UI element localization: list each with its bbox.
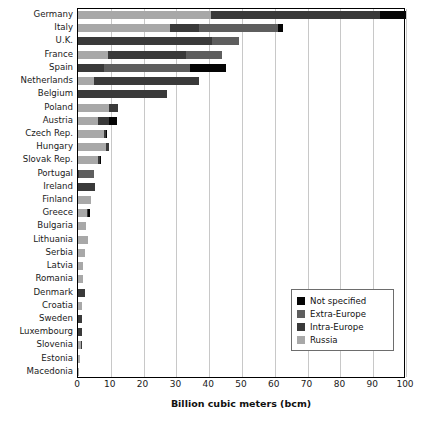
stacked-bar <box>78 328 82 336</box>
x-tick-label: 40 <box>202 379 213 389</box>
y-axis-label: France <box>0 48 73 61</box>
y-axis-label: Lithuania <box>0 233 73 246</box>
bar-segment <box>190 64 226 72</box>
y-axis-label: Hungary <box>0 140 73 153</box>
bar-segment <box>78 275 83 283</box>
legend-swatch-russia <box>297 336 305 344</box>
bar-segment <box>78 143 106 151</box>
stacked-bar <box>78 368 79 376</box>
bar-row <box>78 353 404 366</box>
y-axis-label: Ireland <box>0 180 73 193</box>
bar-row <box>78 260 404 273</box>
y-axis-label: Slovenia <box>0 338 73 351</box>
bar-row <box>78 207 404 220</box>
x-tick-label: 0 <box>74 379 80 389</box>
legend-item: Intra-Europe <box>297 320 388 333</box>
bar-segment <box>212 37 238 45</box>
bar-row <box>78 273 404 286</box>
y-axis-label: Estonia <box>0 352 73 365</box>
y-axis-label: Germany <box>0 8 73 21</box>
legend-item: Extra-Europe <box>297 307 388 320</box>
bar-segment <box>211 11 380 19</box>
bar-segment <box>78 130 104 138</box>
x-tick-label: 10 <box>104 379 115 389</box>
bar-row <box>78 181 404 194</box>
stacked-bar <box>78 262 83 270</box>
bar-segment <box>78 315 82 323</box>
y-axis-label: Latvia <box>0 259 73 272</box>
y-axis-label: Belgium <box>0 87 73 100</box>
y-axis-label: Portugal <box>0 167 73 180</box>
bar-row <box>78 115 404 128</box>
stacked-bar <box>78 341 82 349</box>
bar-segment <box>78 262 83 270</box>
stacked-bar <box>78 196 91 204</box>
gas-imports-stacked-bar-chart: GermanyItalyU.K.FranceSpainNetherlandsBe… <box>0 0 428 429</box>
stacked-bar <box>78 209 90 217</box>
y-axis-label: Serbia <box>0 246 73 259</box>
y-axis-label: Slovak Rep. <box>0 153 73 166</box>
bar-row <box>78 102 404 115</box>
legend-item: Russia <box>297 333 388 346</box>
y-axis-label: Finland <box>0 193 73 206</box>
bar-segment <box>109 117 117 125</box>
bar-row <box>78 9 404 22</box>
bar-segment <box>78 117 98 125</box>
bar-segment <box>109 104 118 112</box>
bar-segment <box>78 90 167 98</box>
y-axis-label: Bulgaria <box>0 219 73 232</box>
legend-swatch-intra-europe <box>297 323 305 331</box>
legend-label: Intra-Europe <box>310 322 363 332</box>
stacked-bar <box>78 64 226 72</box>
y-axis-label: Romania <box>0 272 73 285</box>
bar-segment <box>108 51 187 59</box>
stacked-bar <box>78 170 94 178</box>
bar-segment <box>104 64 189 72</box>
y-axis-label: U.K. <box>0 34 73 47</box>
bar-row <box>78 234 404 247</box>
bar-row <box>78 220 404 233</box>
bar-row <box>78 168 404 181</box>
bar-segment <box>78 77 94 85</box>
x-tick-label: 70 <box>301 379 312 389</box>
stacked-bar <box>78 77 199 85</box>
bar-segment <box>78 209 87 217</box>
bar-segment <box>78 11 211 19</box>
bar-segment <box>78 249 85 257</box>
y-axis-label: Czech Rep. <box>0 127 73 140</box>
bar-segment <box>78 183 95 191</box>
bar-segment <box>78 222 86 230</box>
bar-segment <box>106 130 107 138</box>
bar-segment <box>78 37 212 45</box>
stacked-bar <box>78 183 95 191</box>
bar-segment <box>78 289 85 297</box>
stacked-bar <box>78 51 222 59</box>
stacked-bar <box>78 24 283 32</box>
legend-label: Russia <box>310 335 338 345</box>
stacked-bar <box>78 315 82 323</box>
chart-legend: Not specifiedExtra-EuropeIntra-EuropeRus… <box>291 289 394 351</box>
bar-segment <box>78 368 79 376</box>
stacked-bar <box>78 289 85 297</box>
y-axis-label: Poland <box>0 101 73 114</box>
x-axis-title: Billion cubic meters (bcm) <box>77 398 405 409</box>
bar-segment <box>94 77 199 85</box>
stacked-bar <box>78 104 118 112</box>
x-axis-tick-labels: 0102030405060708090100 <box>0 379 428 395</box>
bar-segment <box>106 143 109 151</box>
stacked-bar <box>78 143 109 151</box>
y-axis-label: Macedonia <box>0 365 73 378</box>
stacked-bar <box>78 156 101 164</box>
bar-row <box>78 49 404 62</box>
stacked-bar <box>78 130 107 138</box>
bar-row <box>78 194 404 207</box>
y-axis-label: Austria <box>0 114 73 127</box>
bar-row <box>78 88 404 101</box>
bar-row <box>78 62 404 75</box>
stacked-bar <box>78 302 82 310</box>
y-axis-label: Spain <box>0 61 73 74</box>
legend-label: Extra-Europe <box>310 309 366 319</box>
bar-segment <box>186 51 222 59</box>
bar-segment <box>81 341 82 349</box>
bar-row <box>78 22 404 35</box>
